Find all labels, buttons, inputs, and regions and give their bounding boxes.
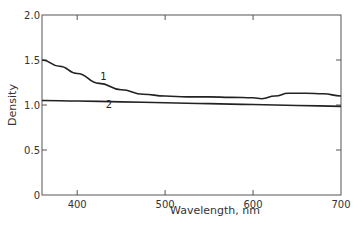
curve-label: 1 [100,71,106,82]
curve-label: 2 [106,99,112,110]
y-tick-label: 1.5 [24,55,40,66]
series-line-2 [42,101,341,107]
y-tick-label: 1.0 [24,100,40,111]
data-series [42,60,341,106]
y-tick-labels: 00.51.01.52.0 [24,10,40,201]
x-axis-title: Wavelength, nm [170,204,260,217]
density-chart: 400500600700 00.51.01.52.0 12 Wavelength… [0,0,362,233]
y-axis-title: Density [6,84,19,126]
curve-annotations: 12 [100,71,112,110]
x-tick-label: 400 [68,199,87,210]
y-tick-label: 0 [34,190,40,201]
y-tick-label: 2.0 [24,10,40,21]
y-tick-label: 0.5 [24,145,40,156]
series-line-1 [42,60,341,99]
x-tick-label: 700 [331,199,350,210]
